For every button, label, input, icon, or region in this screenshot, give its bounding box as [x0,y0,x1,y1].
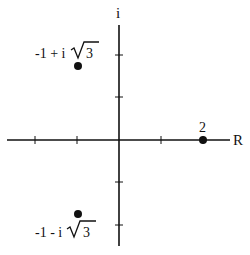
real-axis-label: R [233,132,243,148]
point-label-lower-radicand: 3 [83,225,90,240]
complex-plane-diagram: i R -1 + i 3 2 -1 - i 3 [0,0,250,255]
point-label-upper-prefix: -1 + i [35,46,66,61]
point-label-2: 2 [199,120,206,135]
point-label-lower-prefix: -1 - i [35,225,62,240]
sqrt-icon-lower [67,221,96,237]
point-neg1-plus-i-sqrt3 [74,62,82,70]
point-neg1-minus-i-sqrt3 [74,210,82,218]
imaginary-axis-label: i [116,5,120,21]
sqrt-icon-upper [71,42,99,58]
point-2 [199,136,207,144]
point-label-upper-radicand: 3 [86,46,93,61]
